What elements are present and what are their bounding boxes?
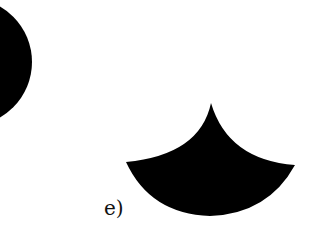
figure-label: e)	[104, 196, 124, 220]
partial-circle-shape	[0, 0, 32, 126]
figure-canvas	[0, 0, 322, 247]
concave-triangle-shape	[126, 103, 295, 216]
